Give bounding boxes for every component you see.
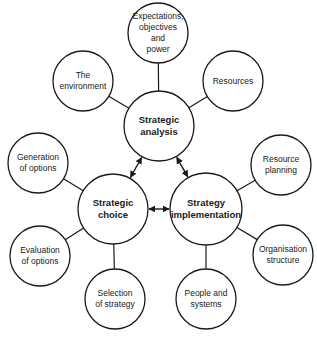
node-label-implementation: Strategy implementation [170,173,242,245]
node-text: Strategic analysis [139,114,180,138]
node-label-environment: The environment [53,51,113,111]
node-text: The environment [60,70,107,92]
node-label-expectations: Expectations, objectives and power [128,3,188,63]
node-text: Selection of strategy [95,288,135,310]
node-text: People and systems [184,288,227,310]
connector-choice-selection [114,244,115,269]
node-label-analysis: Strategic analysis [124,91,194,161]
node-text: Expectations, objectives and power [132,11,183,55]
node-text: Strategy implementation [171,197,241,221]
node-label-resource-planning: Resource planning [251,135,311,195]
node-text: Organisation structure [259,244,307,266]
node-label-evaluation: Evaluation of options [10,226,70,286]
node-label-choice: Strategic choice [78,174,148,244]
node-text: Resource planning [263,154,299,176]
node-label-people: People and systems [176,269,236,329]
node-text: Resources [213,76,254,87]
node-text: Evaluation of options [20,245,60,267]
node-label-resources: Resources [203,51,263,111]
node-text: Generation of options [17,152,59,174]
node-text: Strategic choice [93,197,134,221]
node-label-generation: Generation of options [8,133,68,193]
node-label-organisation: Organisation structure [253,225,313,285]
node-label-selection: Selection of strategy [85,269,145,329]
